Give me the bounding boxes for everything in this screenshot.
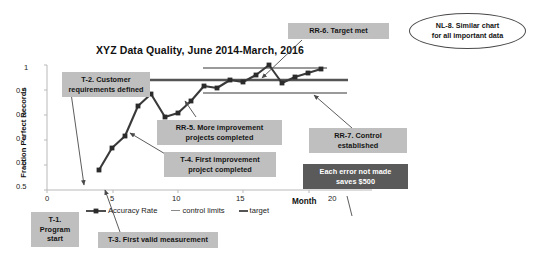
callout-t2[interactable]: T-2. Customer requirements defined <box>62 72 150 97</box>
callout-rr5[interactable]: RR-5. More improvement projects complete… <box>157 120 282 145</box>
callout-rr6[interactable]: RR-6. Target met <box>288 23 389 39</box>
callout-nl8-oval[interactable]: NL-8. Similar chart for all important da… <box>409 13 526 49</box>
legend-label-accuracy-rate: Accuracy Rate <box>108 206 157 215</box>
callout-t1-line1: T-1. <box>35 215 75 225</box>
callout-t4-line1: T-4. First improvement <box>168 155 272 165</box>
chart-page: XYZ Data Quality, June 2014-March, 2016 … <box>0 0 537 257</box>
control-limits-swatch-icon <box>171 210 180 211</box>
legend-item-accuracy-rate[interactable]: Accuracy Rate <box>86 206 157 215</box>
callout-rr7-line2: established <box>313 141 403 151</box>
callout-rr5-line1: RR-5. More improvement <box>161 123 278 133</box>
rr7-leader-arrow <box>314 95 352 128</box>
callout-savings[interactable]: Each error not made saves $500 <box>303 164 408 189</box>
callout-nl8-line2: for all important data <box>432 31 503 41</box>
savings-leader-line <box>347 196 352 216</box>
callout-savings-line2: saves $500 <box>307 177 404 187</box>
rr6-leader-arrow <box>262 40 302 78</box>
callout-t1-line2: Program <box>35 225 75 235</box>
callout-t1[interactable]: T-1. Program start <box>31 212 79 247</box>
legend-item-control-limits[interactable]: control limits <box>171 206 224 215</box>
accuracy-rate-swatch-icon <box>86 207 106 215</box>
callout-t2-line1: T-2. Customer <box>66 75 146 85</box>
callout-t3[interactable]: T-3. First valid measurement <box>98 232 218 248</box>
callout-savings-line1: Each error not made <box>307 167 404 177</box>
callout-nl8-line1: NL-8. Similar chart <box>432 21 503 31</box>
callout-rr7[interactable]: RR-7. Control established <box>309 128 407 153</box>
target-swatch-icon <box>239 210 248 212</box>
callout-rr7-line1: RR-7. Control <box>313 131 403 141</box>
legend-item-target[interactable]: target <box>239 206 269 215</box>
callout-t1-line3: start <box>35 234 75 244</box>
legend-label-target: target <box>250 206 269 215</box>
callout-t4[interactable]: T-4. First improvement project completed <box>164 152 276 177</box>
legend-label-control-limits: control limits <box>182 206 224 215</box>
chart-legend: Accuracy Rate control limits target <box>86 206 269 215</box>
t2-leader-arrow <box>70 86 84 185</box>
callout-t2-line2: requirements defined <box>66 85 146 95</box>
callout-rr5-line2: projects completed <box>161 133 278 143</box>
callout-rr6-line1: RR-6. Target met <box>292 26 385 36</box>
callout-t4-line2: project completed <box>168 165 272 175</box>
callout-t3-line1: T-3. First valid measurement <box>102 235 214 245</box>
